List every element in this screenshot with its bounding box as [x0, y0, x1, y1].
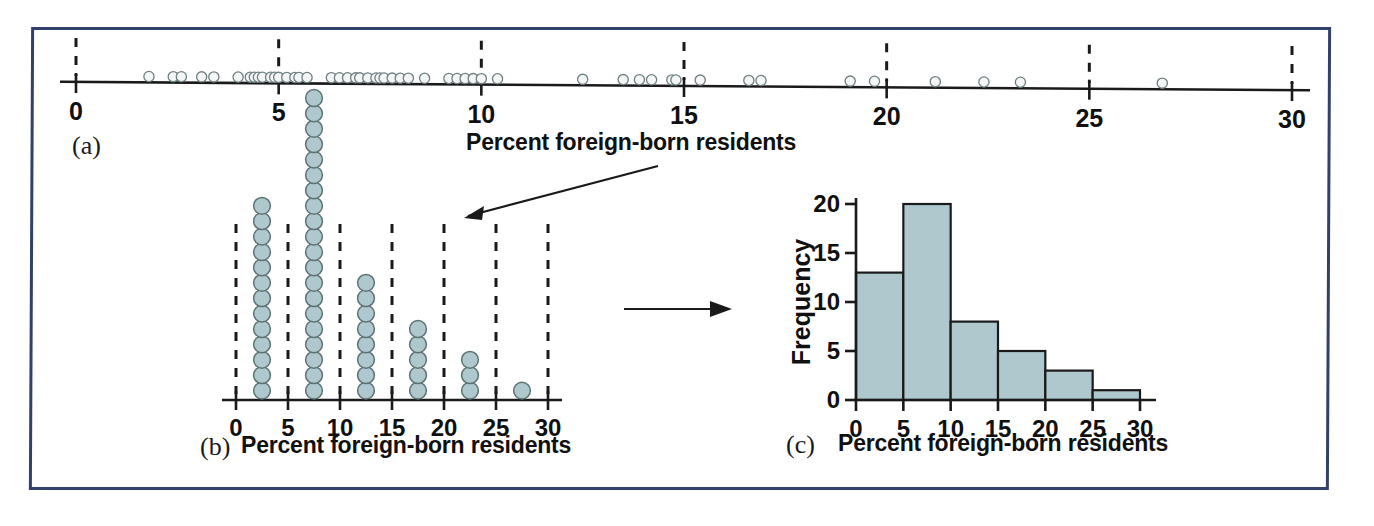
flow-arrow-b-to-c — [622, 295, 742, 325]
svg-text:5: 5 — [272, 98, 286, 126]
panel-b-letter: (b) — [200, 432, 230, 462]
panel-a-dotplot: 051015202530 — [60, 32, 1310, 132]
panel-c-caption: Percent foreign-born residents — [838, 430, 1168, 457]
panel-b-caption: Percent foreign-born residents — [241, 432, 571, 459]
svg-text:10: 10 — [467, 100, 495, 128]
panel-c-histogram: 05101520051015202530Frequency — [790, 182, 1190, 442]
svg-text:25: 25 — [1075, 104, 1103, 132]
svg-text:30: 30 — [1278, 105, 1306, 133]
svg-text:0: 0 — [827, 386, 840, 413]
svg-text:5: 5 — [827, 337, 840, 364]
panel-b-stacked-dotplot: 051015202530 — [196, 182, 596, 442]
svg-text:0: 0 — [69, 97, 83, 125]
panel-a-letter: (a) — [72, 131, 101, 161]
svg-text:20: 20 — [813, 190, 840, 217]
svg-text:10: 10 — [813, 288, 840, 315]
svg-text:15: 15 — [813, 239, 840, 266]
svg-text:Frequency: Frequency — [787, 239, 815, 366]
callout-label-percent-foreign-born: Percent foreign-born residents — [466, 129, 796, 156]
panel-c-letter: (c) — [786, 430, 815, 460]
svg-text:20: 20 — [873, 102, 901, 130]
svg-text:15: 15 — [670, 101, 698, 129]
figure-root: 051015202530 (a) Percent foreign-born re… — [0, 0, 1374, 526]
